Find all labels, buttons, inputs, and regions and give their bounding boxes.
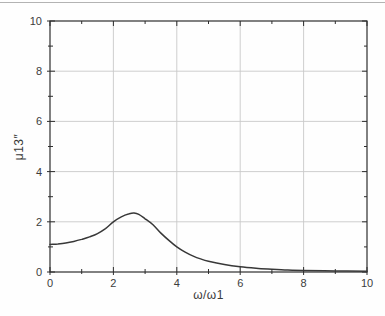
- x-tick-label: 10: [361, 277, 373, 289]
- y-tick-label: 2: [36, 216, 42, 228]
- y-tick-label: 8: [36, 65, 42, 77]
- x-tick-label: 2: [110, 277, 116, 289]
- axis-ticks: [47, 21, 367, 275]
- chart-page: 02468100246810 ω/ω1 μ13″: [0, 0, 385, 316]
- line-plot: 02468100246810: [0, 0, 385, 316]
- x-tick-label: 6: [237, 277, 243, 289]
- y-tick-label: 4: [36, 166, 42, 178]
- tick-labels: 02468100246810: [30, 15, 373, 289]
- x-tick-label: 4: [174, 277, 180, 289]
- x-tick-label: 0: [47, 277, 53, 289]
- y-axis-label: μ13″: [13, 134, 25, 161]
- x-tick-label: 8: [301, 277, 307, 289]
- x-axis-label: ω/ω1: [50, 289, 367, 301]
- y-tick-label: 6: [36, 115, 42, 127]
- y-tick-label: 10: [30, 15, 42, 27]
- y-tick-label: 0: [36, 266, 42, 278]
